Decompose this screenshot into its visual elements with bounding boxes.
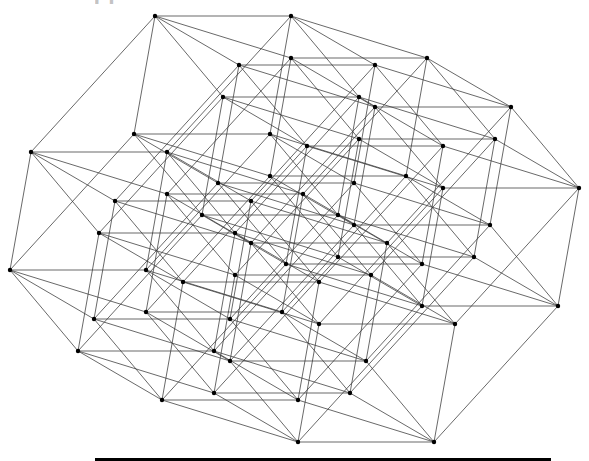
graph-edge bbox=[474, 257, 558, 306]
graph-vertex bbox=[317, 280, 321, 284]
hypercube-graph bbox=[0, 0, 589, 461]
graph-vertex bbox=[336, 213, 340, 217]
graph-edge bbox=[167, 16, 291, 152]
graph-edge bbox=[230, 225, 354, 361]
graph-vertex bbox=[8, 268, 12, 272]
graph-vertex bbox=[357, 95, 361, 99]
graph-vertex bbox=[160, 398, 164, 402]
graph-edge bbox=[31, 16, 155, 152]
graph-edge bbox=[558, 188, 579, 306]
graph-edge bbox=[99, 97, 223, 233]
graph-edge bbox=[511, 107, 579, 188]
graph-vertex bbox=[212, 391, 216, 395]
graph-vertex bbox=[289, 14, 293, 18]
graph-vertex bbox=[144, 268, 148, 272]
graph-edge bbox=[10, 270, 78, 351]
graph-edge bbox=[230, 361, 298, 442]
graph-edge bbox=[434, 324, 455, 442]
graph-vertex bbox=[404, 174, 408, 178]
graph-vertex bbox=[317, 322, 321, 326]
graph-vertex bbox=[92, 317, 96, 321]
graph-vertex bbox=[385, 241, 389, 245]
graph-vertex bbox=[144, 310, 148, 314]
graph-vertex bbox=[29, 150, 33, 154]
graph-edge bbox=[167, 152, 235, 233]
graph-vertex bbox=[76, 349, 80, 353]
graph-vertex bbox=[233, 231, 237, 235]
graph-vertex bbox=[268, 174, 272, 178]
graph-edge bbox=[230, 183, 354, 319]
graph-vertex bbox=[249, 199, 253, 203]
graph-edge bbox=[155, 16, 239, 65]
graph-vertex bbox=[432, 440, 436, 444]
graph-edge bbox=[354, 225, 422, 306]
graph-vertex bbox=[200, 213, 204, 217]
graph-edge bbox=[223, 97, 307, 146]
graph-vertex bbox=[228, 317, 232, 321]
graph-edge bbox=[223, 97, 359, 139]
graph-edge bbox=[10, 270, 146, 312]
graph-vertex bbox=[280, 310, 284, 314]
graph-edge bbox=[282, 312, 366, 361]
graph-edge bbox=[427, 58, 511, 107]
graph-edge bbox=[78, 351, 214, 393]
graph-vertex bbox=[453, 322, 457, 326]
graph-vertex bbox=[132, 132, 136, 136]
graph-edge bbox=[298, 306, 422, 442]
graph-edge bbox=[134, 134, 218, 183]
graph-vertex bbox=[113, 199, 117, 203]
graph-vertex bbox=[237, 63, 241, 67]
graph-edges bbox=[10, 16, 579, 442]
graph-edge bbox=[366, 225, 490, 361]
graph-edge bbox=[359, 97, 495, 139]
graph-vertex bbox=[420, 304, 424, 308]
graph-vertex bbox=[373, 105, 377, 109]
graph-vertices bbox=[8, 14, 581, 444]
graph-vertex bbox=[420, 262, 424, 266]
graph-edge bbox=[298, 400, 434, 442]
graph-vertex bbox=[357, 137, 361, 141]
graph-edge bbox=[155, 16, 291, 58]
graph-edge bbox=[366, 361, 434, 442]
graph-vertex bbox=[249, 241, 253, 245]
graph-vertex bbox=[181, 280, 185, 284]
graph-edge bbox=[10, 152, 31, 270]
graph-edge bbox=[434, 306, 558, 442]
graph-edge bbox=[99, 233, 183, 282]
graph-vertex bbox=[488, 223, 492, 227]
graph-edge bbox=[78, 351, 162, 400]
graph-vertex bbox=[221, 95, 225, 99]
graph-vertex bbox=[212, 349, 216, 353]
graph-edge bbox=[291, 16, 359, 97]
graph-edge bbox=[235, 139, 359, 275]
graph-edge bbox=[155, 16, 223, 97]
graph-vertex bbox=[364, 359, 368, 363]
graph-vertex bbox=[373, 63, 377, 67]
graph-edge bbox=[495, 139, 579, 188]
graph-vertex bbox=[301, 192, 305, 196]
graph-vertex bbox=[305, 144, 309, 148]
graph-edge bbox=[230, 319, 366, 361]
graph-edge bbox=[371, 139, 495, 275]
graph-vertex bbox=[233, 273, 237, 277]
graph-vertex bbox=[165, 150, 169, 154]
graph-edge bbox=[162, 400, 298, 442]
graph-edge bbox=[291, 16, 427, 58]
graph-edge bbox=[350, 393, 434, 442]
graph-vertex bbox=[165, 192, 169, 196]
graph-edge bbox=[371, 275, 455, 324]
graph-edge bbox=[406, 176, 490, 225]
graph-edge bbox=[375, 65, 511, 107]
graph-vertex bbox=[348, 391, 352, 395]
graph-edge bbox=[387, 243, 455, 324]
graph-vertex bbox=[216, 181, 220, 185]
graph-vertex bbox=[472, 255, 476, 259]
graph-edge bbox=[31, 152, 99, 233]
graph-edge bbox=[134, 134, 202, 215]
graph-vertex bbox=[493, 137, 497, 141]
graph-edge bbox=[94, 319, 230, 361]
graph-edge bbox=[94, 183, 218, 319]
graph-vertex bbox=[352, 181, 356, 185]
graph-edge bbox=[10, 270, 94, 319]
graph-vertex bbox=[509, 105, 513, 109]
